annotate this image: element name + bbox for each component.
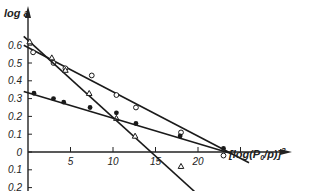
y-tick-label: 0.6	[8, 40, 22, 51]
y-tick-label: 0.2	[8, 182, 22, 191]
y-tick-label: 0.5	[8, 58, 22, 69]
filled-circle-marker	[88, 105, 93, 110]
filled-circle-marker	[32, 91, 37, 96]
filled-circle-marker	[134, 121, 139, 126]
y-tick-label: 0	[16, 147, 22, 158]
x-axis-title: [log(P0/p)]2	[228, 146, 286, 161]
filled-circle-marker	[221, 146, 226, 151]
x-tick-label: 20	[191, 156, 204, 167]
y-axis-title: log a	[4, 7, 30, 19]
filled-circle-marker	[178, 134, 183, 139]
open-circle-marker	[221, 153, 226, 158]
y-tick-label: 0.4	[8, 75, 22, 86]
y-tick-label: 0.1	[8, 164, 22, 175]
open-circle-marker	[31, 50, 36, 55]
plot-area: 0.60.50.40.30.20.100.10.25101520	[8, 6, 292, 191]
open-triangle-marker	[132, 133, 138, 138]
y-tick-label: 0.2	[8, 111, 22, 122]
filled-circle-marker	[61, 100, 66, 105]
filled-circle-marker	[114, 110, 119, 115]
x-tick-label: 5	[68, 156, 74, 167]
y-tick-label: 0.3	[8, 93, 22, 104]
chart: 0.60.50.40.30.20.100.10.25101520 log a […	[0, 0, 315, 191]
open-circle-marker	[89, 73, 94, 78]
fit-line-open-circles	[24, 45, 249, 162]
filled-circle-marker	[51, 96, 56, 101]
x-tick-label: 10	[107, 156, 119, 167]
open-triangle-marker	[178, 163, 184, 168]
open-circle-marker	[114, 93, 119, 98]
open-triangle-marker	[49, 55, 55, 60]
open-triangle-marker	[86, 90, 92, 95]
fit-line-filled-circles	[24, 91, 232, 153]
x-tick-label: 15	[150, 156, 162, 167]
y-tick-label: 0.1	[8, 129, 22, 140]
open-circle-marker	[134, 105, 139, 110]
